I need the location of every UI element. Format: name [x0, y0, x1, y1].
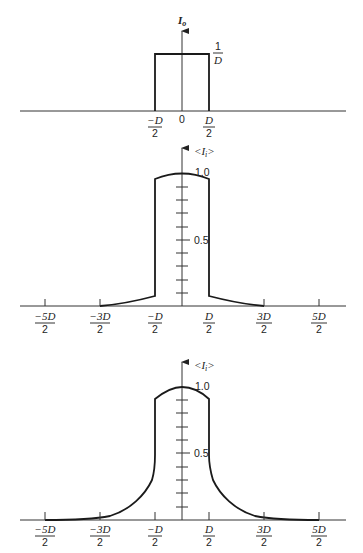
- svg-text:2: 2: [152, 323, 158, 335]
- svg-text:2: 2: [206, 323, 212, 335]
- svg-text:5D: 5D: [312, 310, 326, 322]
- x-tick-label-neg-half: −D 2: [147, 114, 162, 139]
- svg-text:−3D: −3D: [90, 523, 111, 535]
- svg-text:2: 2: [152, 536, 158, 548]
- y-ticks: [176, 400, 190, 507]
- x-tick-labels: −5D2 −3D2 −D2 D2 3D2 5D2: [35, 310, 327, 335]
- x-tick-labels: −5D2 −3D2 −D2 D2 3D2 5D2: [35, 523, 327, 548]
- svg-text:2: 2: [97, 323, 103, 335]
- svg-text:−3D: −3D: [90, 310, 111, 322]
- panel-image-intensity-narrow: <Ii> 1.0 0.5 −5D2 −3D2 −D2 D2 3D2 5: [20, 145, 346, 335]
- figure-canvas: Io 1 D 0 −D 2 D 2 <Ii>: [0, 0, 363, 553]
- svg-text:−D: −D: [147, 114, 162, 126]
- panel-object-intensity: Io 1 D 0 −D 2 D 2: [20, 14, 346, 139]
- y-ticks: [176, 187, 190, 293]
- svg-text:D: D: [204, 114, 213, 126]
- svg-text:2: 2: [261, 536, 267, 548]
- y-tick-label-0-5: 0.5: [194, 447, 209, 459]
- svg-text:2: 2: [42, 323, 48, 335]
- svg-text:D: D: [204, 523, 213, 535]
- svg-text:2: 2: [316, 536, 322, 548]
- panel-image-intensity-broad: <Ii> 1.0 0.5 −5D2 −3D2 −D2 D2: [20, 359, 346, 548]
- svg-text:−D: −D: [147, 523, 162, 535]
- svg-text:3D: 3D: [256, 523, 271, 535]
- x-tick-label-pos-half: D 2: [203, 114, 215, 139]
- svg-text:2: 2: [316, 323, 322, 335]
- svg-text:3D: 3D: [256, 310, 271, 322]
- svg-text:2: 2: [206, 536, 212, 548]
- svg-text:2: 2: [206, 127, 212, 139]
- height-label-num: 1: [215, 40, 221, 52]
- svg-text:−5D: −5D: [35, 523, 56, 535]
- y-axis-label: <Ii>: [194, 359, 215, 373]
- svg-text:2: 2: [152, 127, 158, 139]
- svg-text:D: D: [204, 310, 213, 322]
- origin-label: 0: [179, 113, 185, 125]
- y-axis-label: <Ii>: [194, 145, 215, 159]
- svg-text:2: 2: [261, 323, 267, 335]
- svg-text:5D: 5D: [312, 523, 326, 535]
- svg-text:2: 2: [42, 536, 48, 548]
- svg-text:−5D: −5D: [35, 310, 56, 322]
- svg-text:−D: −D: [147, 310, 162, 322]
- y-tick-label-0-5: 0.5: [194, 234, 209, 246]
- svg-text:2: 2: [97, 536, 103, 548]
- y-axis-label: Io: [177, 14, 186, 28]
- height-label-den: D: [213, 54, 222, 66]
